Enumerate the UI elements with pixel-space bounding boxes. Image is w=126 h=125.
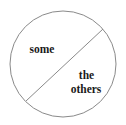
- outer-circle: [10, 11, 116, 117]
- circle-diagram: [0, 0, 126, 125]
- region-label-others: others: [68, 84, 104, 96]
- region-label-the: the: [70, 70, 103, 82]
- region-label-some: some: [27, 44, 57, 56]
